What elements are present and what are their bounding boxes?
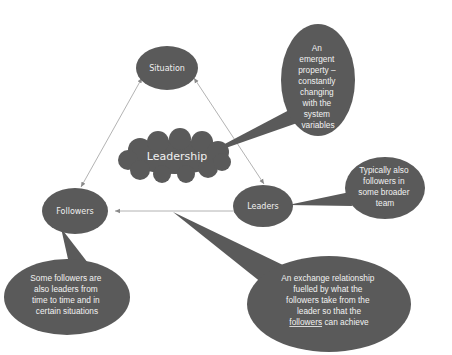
leadership-label: Leadership — [147, 150, 207, 163]
followers-note-callout: Some followers are also leaders from tim… — [4, 228, 130, 335]
leaders-note-callout: Typically also followers in some broader… — [288, 157, 425, 219]
followers-note-text: Some followers are also leaders from tim… — [30, 273, 103, 316]
leadership-diagram: Situation An emergent property – constan… — [0, 0, 452, 355]
situation-node: Situation — [136, 46, 198, 90]
callout-tail — [288, 192, 352, 206]
exchange-callout: An exchange relationship fuelled by what… — [173, 212, 411, 352]
leaders-label: Leaders — [247, 202, 279, 211]
followers-label: Followers — [56, 207, 93, 216]
leadership-cloud: Leadership — [118, 128, 231, 183]
emergent-property-callout: An emergent property – constantly changi… — [200, 24, 355, 157]
followers-node: Followers — [42, 188, 108, 234]
leaders-node: Leaders — [233, 185, 293, 227]
underlined-followers-word: followers — [289, 317, 322, 327]
emergent-callout-text: An emergent property – constantly changi… — [298, 43, 338, 130]
exchange-callout-last-line: followers can achieve — [289, 317, 369, 327]
situation-label: Situation — [149, 64, 185, 73]
